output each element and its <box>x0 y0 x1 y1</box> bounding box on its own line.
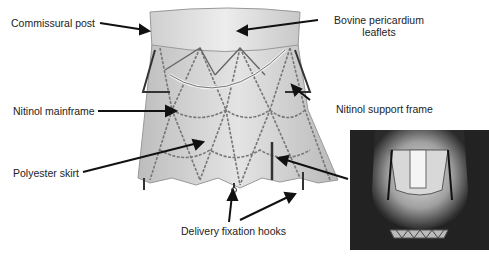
label-nitinol-mainframe: Nitinol mainframe <box>13 105 95 117</box>
label-bovine-pericardium-leaflets: Bovine pericardium leaflets <box>320 14 438 38</box>
label-delivery-fixation-hooks: Delivery fixation hooks <box>181 225 286 237</box>
inset-valve-image <box>350 130 489 250</box>
label-bovine-line1: Bovine pericardium <box>320 14 438 26</box>
inset-photo <box>350 130 489 250</box>
label-nitinol-support-frame: Nitinol support frame <box>336 103 433 115</box>
label-commissural-post: Commissural post <box>11 17 95 29</box>
label-polyester-skirt: Polyester skirt <box>13 167 79 179</box>
label-bovine-line2: leaflets <box>320 26 438 38</box>
